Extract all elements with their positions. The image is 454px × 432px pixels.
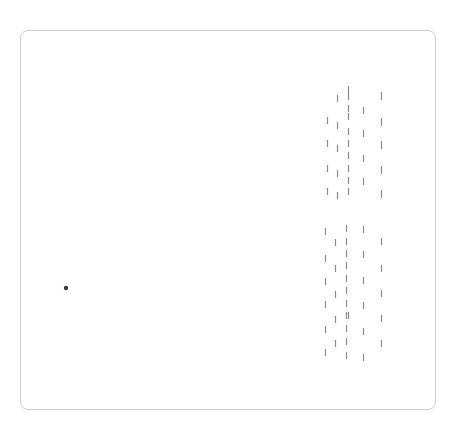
point-marker[interactable] <box>64 286 68 290</box>
lower-group <box>326 225 382 361</box>
upper-group <box>328 86 382 199</box>
tick-marks <box>326 86 382 361</box>
stage <box>0 0 454 432</box>
drawing-canvas[interactable] <box>0 0 454 432</box>
